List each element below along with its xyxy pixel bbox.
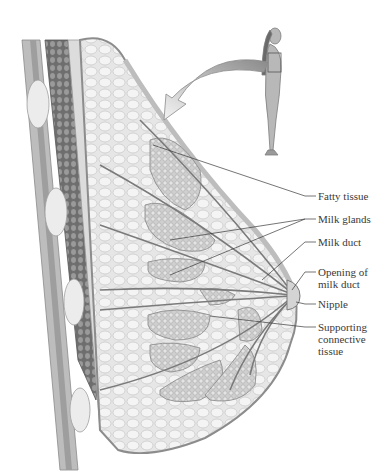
label-milk-glands: Milk glands bbox=[318, 213, 371, 225]
label-fatty-tissue: Fatty tissue bbox=[318, 190, 368, 202]
label-opening-of-milk-duct: Opening of milk duct bbox=[318, 266, 368, 290]
label-milk-duct: Milk duct bbox=[318, 236, 361, 248]
rib-4 bbox=[70, 388, 90, 432]
rib-3 bbox=[64, 279, 84, 325]
rib-1 bbox=[27, 80, 49, 128]
rib-2 bbox=[45, 188, 67, 236]
pointer-arrow bbox=[164, 60, 268, 120]
label-nipple: Nipple bbox=[318, 298, 348, 310]
label-supporting-connective-tissue: Supporting connective tissue bbox=[318, 321, 367, 357]
inset-female-figure bbox=[262, 28, 281, 155]
nipple bbox=[287, 280, 300, 310]
